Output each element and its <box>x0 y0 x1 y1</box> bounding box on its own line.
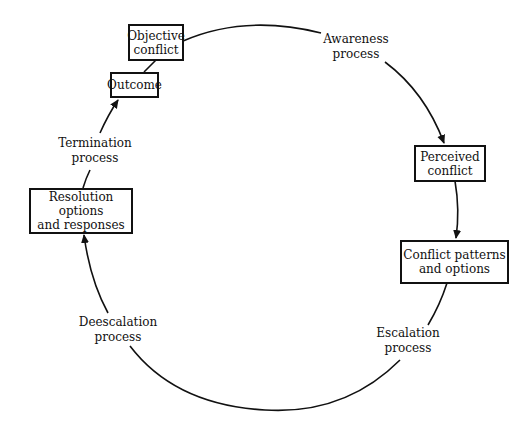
node-patterns-line1: Conflict patterns <box>403 248 506 262</box>
node-outcome: Outcome <box>110 72 159 98</box>
node-conflict-patterns: Conflict patterns and options <box>400 240 509 284</box>
label-escalation-process: Escalation process <box>376 326 439 356</box>
awareness-line2: process <box>323 47 389 62</box>
node-perceived-line2: conflict <box>427 164 472 178</box>
arc-patterns-to-escalation <box>428 283 447 325</box>
termination-line2: process <box>58 151 132 166</box>
label-awareness-process: Awareness process <box>323 32 389 62</box>
arc-perceived-to-patterns <box>455 181 458 238</box>
termination-line1: Termination <box>58 136 132 151</box>
arc-escalation-to-deescalation <box>130 346 400 410</box>
escalation-line2: process <box>376 341 439 356</box>
arc-resolution-to-termination <box>83 170 90 188</box>
node-resolution-line2: and responses <box>37 218 124 232</box>
node-objective-conflict: Objective conflict <box>128 24 184 61</box>
label-deescalation-process: Deescalation process <box>79 315 157 345</box>
arc-objective-to-awareness <box>183 25 321 41</box>
node-objective-line1: Objective <box>127 29 185 43</box>
node-objective-line2: conflict <box>133 43 178 57</box>
node-patterns-line2: and options <box>419 262 490 276</box>
node-outcome-line1: Outcome <box>107 78 162 92</box>
escalation-line1: Escalation <box>376 326 439 341</box>
node-resolution-line1: Resolution options <box>31 190 131 218</box>
deescalation-line2: process <box>79 330 157 345</box>
node-resolution-options: Resolution options and responses <box>29 188 133 234</box>
node-perceived-line1: Perceived <box>420 150 480 164</box>
node-perceived-conflict: Perceived conflict <box>414 145 486 182</box>
awareness-line1: Awareness <box>323 32 389 47</box>
arc-awareness-to-perceived <box>385 62 444 143</box>
deescalation-line1: Deescalation <box>79 315 157 330</box>
arc-termination-to-outcome <box>100 100 118 133</box>
label-termination-process: Termination process <box>58 136 132 166</box>
arc-deescalation-to-resolution <box>84 235 108 313</box>
arc-outcome-to-objective <box>144 60 156 72</box>
